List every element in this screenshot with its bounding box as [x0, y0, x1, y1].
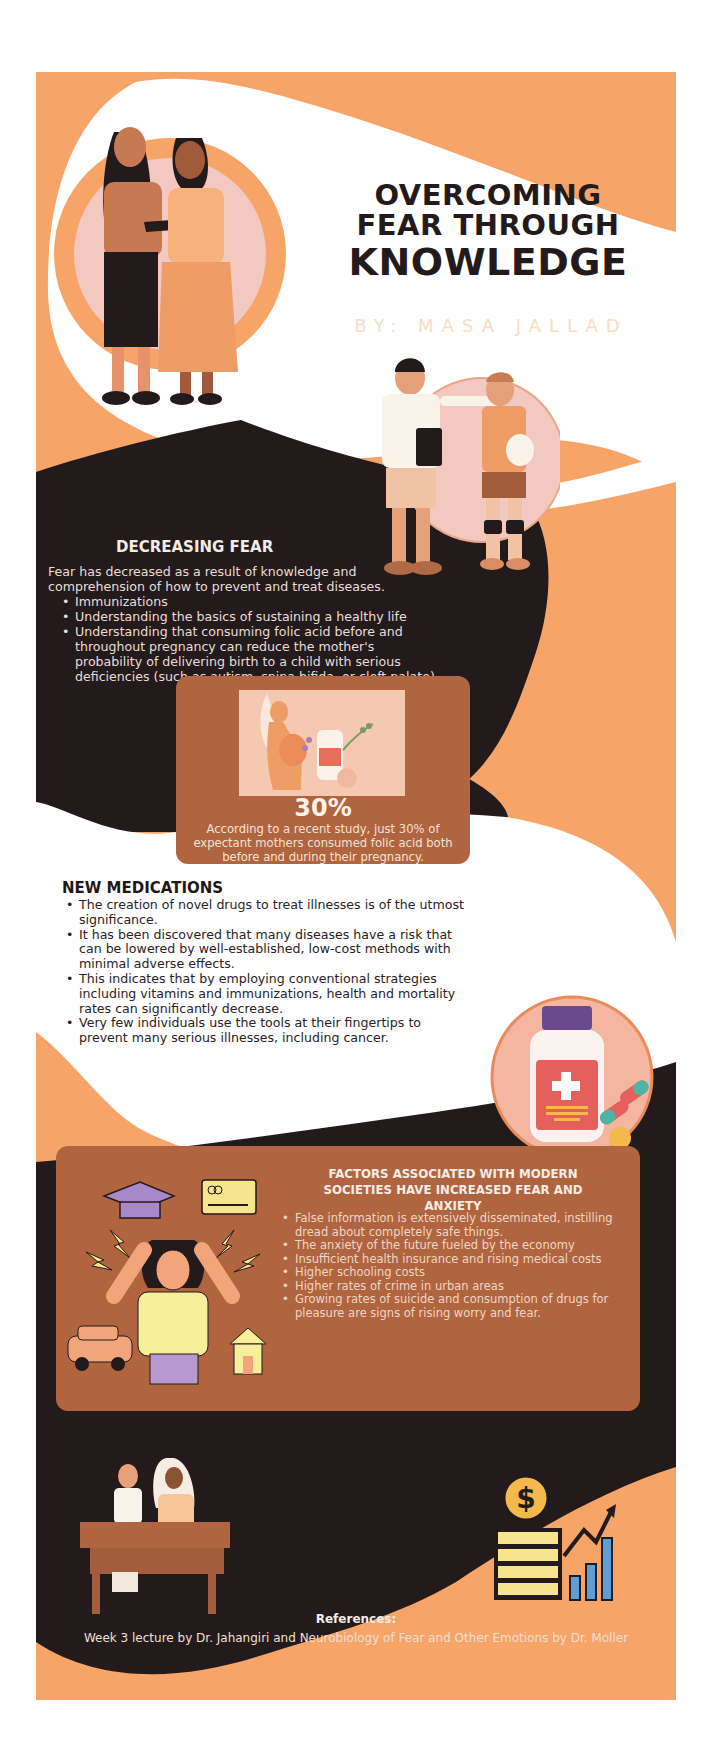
poster-title: OVERCOMING FEAR THROUGH KNOWLEDGE [318, 180, 658, 283]
list-item: The creation of novel drugs to treat ill… [66, 898, 472, 928]
title-line-1: OVERCOMING [318, 180, 658, 210]
svg-text:$: $ [516, 1482, 535, 1515]
new-medications-list: The creation of novel drugs to treat ill… [52, 898, 472, 1046]
list-item: Higher rates of crime in urban areas [282, 1280, 626, 1294]
anxious-woman-illustration [64, 1166, 280, 1396]
decreasing-fear-body: Fear has decreased as a result of knowle… [48, 564, 438, 684]
author-byline: BY: MASA JALLAD [326, 315, 656, 336]
list-item: Very few individuals use the tools at th… [66, 1016, 472, 1046]
medicine-bottle-illustration [484, 992, 664, 1162]
money-growth-chart-icon: $ [488, 1472, 618, 1602]
references-text: Week 3 lecture by Dr. Jahangiri and Neur… [76, 1629, 636, 1647]
stat-description: According to a recent study, just 30% of… [182, 822, 464, 864]
list-item: Immunizations [62, 594, 438, 609]
references-heading: References: [36, 1612, 676, 1626]
list-item: Growing rates of suicide and consumption… [282, 1293, 626, 1320]
list-item: Understanding that consuming folic acid … [62, 624, 438, 684]
decreasing-fear-heading: DECREASING FEAR [116, 538, 273, 556]
stat-value: 30% [176, 794, 470, 822]
decreasing-fear-intro: Fear has decreased as a result of knowle… [48, 564, 438, 594]
factors-list: False information is extensively dissemi… [276, 1212, 626, 1320]
new-medications-body: The creation of novel drugs to treat ill… [52, 898, 472, 1046]
pregnant-woman-image [239, 690, 405, 796]
factors-body: False information is extensively dissemi… [276, 1212, 626, 1320]
list-item: The anxiety of the future fueled by the … [282, 1239, 626, 1253]
list-item: This indicates that by employing convent… [66, 972, 472, 1016]
title-line-2: FEAR THROUGH [318, 210, 658, 240]
teacher-student-illustration [370, 352, 560, 592]
decreasing-fear-list: Immunizations Understanding the basics o… [48, 594, 438, 684]
list-item: It has been discovered that many disease… [66, 928, 472, 972]
infographic-poster: OVERCOMING FEAR THROUGH KNOWLEDGE BY: MA… [36, 72, 676, 1700]
title-line-3: KNOWLEDGE [318, 243, 658, 283]
list-item: Insufficient health insurance and rising… [282, 1253, 626, 1267]
list-item: Higher schooling costs [282, 1266, 626, 1280]
women-reading-illustration [42, 102, 304, 422]
factors-card: FACTORS ASSOCIATED WITH MODERN SOCIETIES… [56, 1146, 640, 1411]
factors-heading: FACTORS ASSOCIATED WITH MODERN SOCIETIES… [294, 1166, 612, 1214]
list-item: False information is extensively dissemi… [282, 1212, 626, 1239]
new-medications-heading: NEW MEDICATIONS [62, 879, 223, 897]
list-item: Understanding the basics of sustaining a… [62, 609, 438, 624]
folic-acid-stat-card: 30% According to a recent study, just 30… [176, 676, 470, 864]
students-at-desk-illustration [70, 1452, 230, 1617]
